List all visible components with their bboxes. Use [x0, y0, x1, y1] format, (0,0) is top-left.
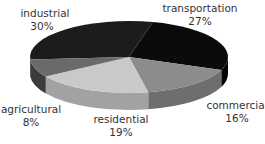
pie-chart: industrial 30% transportation 27% commer…	[0, 0, 265, 144]
label-transportation-value: 27%	[188, 15, 211, 27]
label-commercial-name: commercial	[206, 99, 265, 111]
label-industrial-value: 30%	[30, 20, 53, 32]
label-residential-value: 19%	[109, 126, 132, 138]
label-agricultural-name: agricultural	[1, 103, 61, 115]
pie-tops	[30, 21, 228, 93]
label-transportation-name: transportation	[162, 2, 237, 14]
label-residential-name: residential	[93, 113, 148, 125]
label-commercial-value: 16%	[225, 112, 248, 124]
label-agricultural-value: 8%	[23, 116, 40, 128]
label-industrial-name: industrial	[20, 7, 69, 19]
